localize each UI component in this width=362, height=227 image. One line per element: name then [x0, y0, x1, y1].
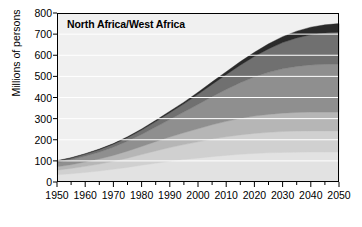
chart-title: North Africa/West Africa	[67, 18, 185, 30]
x-tick-label: 2040	[299, 190, 322, 201]
x-tick-label: 2050	[327, 190, 350, 201]
x-tick-label: 2030	[271, 190, 294, 201]
chart-container: Millions of persons 01002003004005006007…	[0, 0, 362, 227]
x-tick-label: 1990	[158, 190, 181, 201]
x-tick-label: 1970	[102, 190, 125, 201]
y-tick-label: 100	[34, 156, 52, 167]
x-tick-label: 2020	[243, 190, 266, 201]
y-tick-label: 200	[34, 135, 52, 146]
stacked-area-plot	[57, 13, 339, 182]
y-tick-label: 800	[34, 8, 52, 19]
y-tick-label: 0	[46, 177, 52, 188]
x-tick-label: 1980	[130, 190, 153, 201]
y-tick-label: 600	[34, 50, 52, 61]
y-axis-tick-labels: 0100200300400500600700800	[0, 13, 52, 182]
x-tick-label: 1950	[45, 190, 68, 201]
x-axis-tick-labels: 1950196019701980199020002010202020302040…	[57, 190, 339, 206]
x-tick-label: 1960	[74, 190, 97, 201]
y-tick-label: 700	[34, 29, 52, 40]
y-tick-label: 500	[34, 71, 52, 82]
x-tick-label: 2000	[186, 190, 209, 201]
y-tick-label: 300	[34, 113, 52, 124]
plot-area: North Africa/West Africa	[57, 13, 339, 182]
y-tick-label: 400	[34, 92, 52, 103]
x-tick-label: 2010	[215, 190, 238, 201]
